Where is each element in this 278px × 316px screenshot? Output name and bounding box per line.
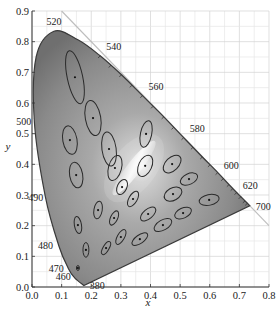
wavelength-label-560: 560 (149, 81, 164, 92)
x-tick-label: 0.2 (85, 290, 98, 301)
y-tick-label: 0.3 (16, 190, 29, 201)
y-tick-label: 0.7 (16, 67, 29, 78)
wavelength-label-480: 480 (38, 240, 53, 251)
y-tick-label: 0.9 (16, 6, 29, 17)
y-tick-label: 0.8 (16, 36, 29, 47)
y-tick-label: 0.4 (16, 159, 30, 170)
x-axis-tick-labels: 0.00.10.20.30.40.50.60.70.8 (25, 290, 275, 301)
x-tick-label: 0.8 (262, 290, 275, 301)
y-axis-tick-labels: 0.00.10.20.30.40.50.60.70.80.9 (16, 6, 30, 293)
y-tick-label: 0.0 (16, 282, 29, 293)
y-tick-label: 0.5 (16, 128, 29, 139)
wavelength-label-470: 470 (49, 263, 64, 274)
cie-chromaticity-chart: 0.00.10.20.30.40.50.60.70.8 0.00.10.20.3… (0, 0, 278, 316)
wavelength-label-540: 540 (106, 41, 121, 52)
x-tick-label: 0.1 (55, 290, 68, 301)
x-tick-label: 0.5 (174, 290, 187, 301)
x-axis-title: x (145, 296, 151, 308)
wavelength-label-620: 620 (243, 180, 258, 191)
x-tick-label: 0.6 (203, 290, 216, 301)
y-tick-label: 0.6 (16, 98, 29, 109)
wavelength-label-380: 380 (90, 280, 105, 291)
y-axis-title: y (5, 140, 11, 152)
x-tick-label: 0.7 (233, 290, 246, 301)
y-tick-label: 0.1 (16, 251, 29, 262)
wavelength-label-520: 520 (46, 16, 61, 27)
y-tick-label: 0.2 (16, 220, 29, 231)
wavelength-label-600: 600 (224, 160, 239, 171)
wavelength-label-700: 700 (256, 201, 271, 212)
wavelength-label-500: 500 (16, 116, 31, 127)
wavelength-label-580: 580 (190, 123, 205, 134)
wavelength-label-490: 490 (28, 192, 43, 203)
x-tick-label: 0.3 (114, 290, 127, 301)
